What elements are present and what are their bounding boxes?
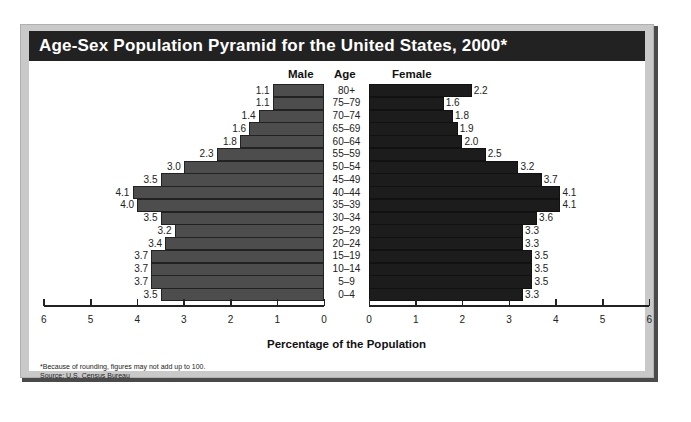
male-bar (133, 186, 324, 199)
age-group-label: 40–44 (325, 187, 369, 199)
male-value-label: 3.4 (147, 238, 163, 250)
male-header: Male (288, 68, 314, 80)
male-value-label: 3.7 (133, 276, 149, 288)
male-tick-label: 0 (314, 314, 334, 325)
age-group-label: 10–14 (325, 263, 369, 275)
female-value-label: 3.5 (533, 250, 549, 262)
female-value-label: 3.2 (519, 161, 535, 173)
male-bar (165, 237, 324, 250)
male-value-label: 1.6 (231, 123, 247, 135)
female-bar (369, 122, 458, 135)
female-value-label: 3.5 (533, 276, 549, 288)
female-bar (369, 135, 462, 148)
male-axis-tick (43, 299, 45, 306)
male-bar (137, 199, 324, 212)
male-axis-tick (137, 299, 139, 306)
female-axis-tick (462, 299, 464, 306)
age-group-label: 70–74 (325, 110, 369, 122)
female-axis-tick (649, 299, 651, 306)
age-group-label: 25–29 (325, 225, 369, 237)
age-header: Age (334, 68, 356, 80)
female-bar (369, 148, 486, 161)
female-bar (369, 186, 560, 199)
female-bar (369, 250, 532, 263)
age-group-label: 80+ (325, 85, 369, 97)
male-value-label: 1.4 (241, 110, 257, 122)
female-value-label: 2.5 (487, 148, 503, 160)
female-tick-label: 1 (406, 314, 426, 325)
male-bar (175, 224, 324, 237)
male-bar (217, 148, 324, 161)
female-axis-tick (555, 299, 557, 306)
male-axis-tick (230, 299, 232, 306)
male-value-label: 1.1 (255, 85, 271, 97)
male-tick-label: 1 (267, 314, 287, 325)
female-value-label: 1.9 (459, 123, 475, 135)
age-group-label: 35–39 (325, 199, 369, 211)
male-tick-label: 6 (34, 314, 54, 325)
age-group-label: 65–69 (325, 123, 369, 135)
age-group-label: 5–9 (325, 276, 369, 288)
male-value-label: 3.7 (133, 250, 149, 262)
male-value-label: 3.7 (133, 263, 149, 275)
male-bar (249, 122, 324, 135)
male-value-label: 3.0 (166, 161, 182, 173)
male-bar (151, 250, 324, 263)
female-value-label: 3.5 (533, 263, 549, 275)
age-group-label: 55–59 (325, 148, 369, 160)
male-bar (273, 97, 324, 110)
male-tick-label: 3 (174, 314, 194, 325)
male-bar (151, 263, 324, 276)
female-axis-tick (602, 299, 604, 306)
male-bar (161, 288, 324, 301)
x-axis-label: Percentage of the Population (267, 338, 426, 350)
male-bar (240, 135, 324, 148)
age-group-label: 45–49 (325, 174, 369, 186)
female-value-label: 3.6 (538, 212, 554, 224)
male-tick-label: 4 (127, 314, 147, 325)
male-bar (273, 84, 324, 97)
female-bar (369, 97, 444, 110)
female-tick-label: 4 (546, 314, 566, 325)
female-value-label: 1.6 (445, 97, 461, 109)
female-value-label: 2.0 (463, 136, 479, 148)
male-tick-label: 5 (81, 314, 101, 325)
female-tick-label: 2 (452, 314, 472, 325)
age-group-label: 60–64 (325, 136, 369, 148)
male-tick-label: 2 (221, 314, 241, 325)
female-axis-tick (415, 299, 417, 306)
female-header: Female (392, 68, 432, 80)
chart-title: Age-Sex Population Pyramid for the Unite… (29, 31, 645, 61)
male-value-label: 3.5 (143, 174, 159, 186)
male-bar (151, 275, 324, 288)
female-value-label: 3.3 (524, 289, 540, 301)
age-group-label: 75–79 (325, 97, 369, 109)
male-value-label: 4.0 (119, 199, 135, 211)
male-axis-tick (277, 299, 279, 306)
female-bar (369, 275, 532, 288)
female-value-label: 4.1 (561, 199, 577, 211)
female-tick-label: 3 (499, 314, 519, 325)
female-tick-label: 6 (639, 314, 659, 325)
female-value-label: 3.3 (524, 225, 540, 237)
female-bar (369, 173, 542, 186)
male-axis-tick (90, 299, 92, 306)
age-group-label: 50–54 (325, 161, 369, 173)
age-group-label: 20–24 (325, 238, 369, 250)
age-group-label: 15–19 (325, 250, 369, 262)
female-bar (369, 288, 523, 301)
male-value-label: 1.8 (222, 136, 238, 148)
female-bar (369, 224, 523, 237)
male-axis-tick (183, 299, 185, 306)
age-group-label: 30–34 (325, 212, 369, 224)
female-value-label: 2.2 (473, 85, 489, 97)
male-value-label: 3.5 (143, 289, 159, 301)
female-tick-label: 0 (359, 314, 379, 325)
footnote: *Because of rounding, figures may not ad… (40, 362, 205, 371)
female-value-label: 1.8 (454, 110, 470, 122)
female-bar (369, 110, 453, 123)
female-bar (369, 237, 523, 250)
female-bar (369, 212, 537, 225)
male-value-label: 3.2 (157, 225, 173, 237)
female-axis-tick (369, 299, 371, 306)
